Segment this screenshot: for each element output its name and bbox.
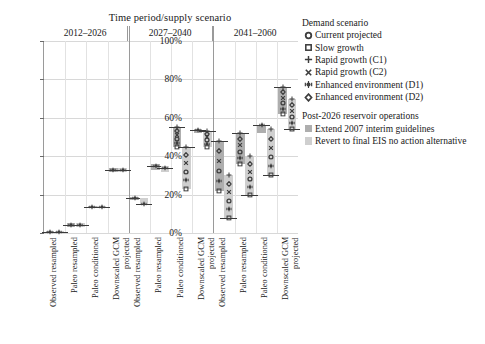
box-range-revert-eis — [288, 99, 297, 130]
legend-group-operations: Extend 2007 interim guidelinesRevert to … — [302, 122, 485, 147]
median-line — [169, 127, 186, 128]
legend-title-demand: Demand scenario — [302, 18, 485, 28]
x-axis-tick-label: Paleo conditioned — [91, 237, 101, 337]
legend-label: Enhanced environment (D2) — [315, 92, 423, 102]
y-axis-tick-label: 20% — [165, 190, 182, 200]
period-label-3: 2041–2060 — [212, 26, 297, 41]
y-axis-tick-label: 60% — [165, 113, 182, 123]
legend-title-operations: Post-2026 reservoir operations — [302, 111, 485, 121]
legend-item-demand[interactable]: Rapid growth (C1) — [302, 54, 485, 66]
y-axis-tick-label: 80% — [165, 74, 182, 84]
legend-item-demand[interactable]: Slow growth — [302, 41, 485, 53]
star-dot-icon — [302, 80, 315, 89]
category-column — [171, 41, 192, 233]
legend-label: Revert to final EIS no action alternativ… — [315, 136, 466, 146]
category-column — [192, 41, 213, 233]
category-column — [129, 41, 150, 233]
y-axis-tick-label: 100% — [160, 36, 182, 46]
category-column — [108, 41, 129, 233]
legend-item-operations[interactable]: Extend 2007 interim guidelines — [302, 122, 485, 134]
legend-label: Rapid growth (C2) — [315, 67, 387, 77]
legend-label: Enhanced environment (D1) — [315, 80, 423, 90]
page-title: Time period/supply scenario — [43, 12, 297, 23]
box-range-extend2007 — [236, 133, 245, 164]
x-axis-tick-label: Observed resampled — [133, 237, 143, 337]
category-column — [86, 41, 107, 233]
legend-item-demand[interactable]: Rapid growth (C2) — [302, 66, 485, 78]
x-axis-tick-label: Paleo conditioned — [176, 237, 186, 337]
x-axis-labels: Observed resampledPaleo resampledPaleo c… — [43, 235, 297, 340]
x-axis-tick-label: Paleo conditioned — [260, 237, 270, 337]
category-column — [213, 41, 234, 233]
period-label-1: 2012–2026 — [43, 26, 127, 41]
x-axis-tick-label: Downscaled GCM projected — [197, 237, 216, 337]
chart-root: Time period/supply scenario 2012–2026 20… — [0, 0, 485, 344]
x-axis-tick-label: Paleo resampled — [154, 237, 164, 337]
median-line — [284, 129, 301, 130]
x-axis-tick-label: Paleo resampled — [70, 237, 80, 337]
x-axis-tick-label: Downscaled GCM projected — [281, 237, 300, 337]
legend-item-operations[interactable]: Revert to final EIS no action alternativ… — [302, 135, 485, 147]
x-axis-tick-label: Observed resampled — [49, 237, 59, 337]
chart-legend: Demand scenario Current projectedSlow gr… — [302, 18, 485, 147]
cross-icon — [302, 68, 315, 77]
category-column — [235, 41, 256, 233]
y-axis-tick-mark — [40, 233, 44, 234]
legend-group-demand: Current projectedSlow growthRapid growth… — [302, 29, 485, 103]
box-range-revert-eis — [203, 131, 212, 146]
legend-label: Rapid growth (C1) — [315, 55, 387, 65]
median-line — [232, 133, 249, 134]
median-line — [211, 141, 228, 142]
x-axis-tick-label: Downscaled GCM projected — [112, 237, 131, 337]
box-range-revert-eis — [224, 175, 233, 217]
median-line — [253, 125, 270, 126]
color-swatch — [302, 137, 315, 145]
circle-open-icon — [302, 31, 315, 40]
box-range-extend2007 — [278, 87, 287, 114]
category-column — [44, 41, 65, 233]
box-range-revert-eis — [267, 129, 276, 175]
color-swatch — [302, 125, 315, 133]
square-open-icon — [302, 43, 315, 52]
legend-item-demand[interactable]: Current projected — [302, 29, 485, 41]
legend-label: Extend 2007 interim guidelines — [315, 124, 435, 134]
legend-spacer — [302, 103, 485, 111]
diamond-open-icon — [302, 93, 315, 102]
x-axis-tick-label: Observed resampled — [218, 237, 228, 337]
plot-area — [43, 41, 298, 234]
legend-label: Slow growth — [315, 43, 364, 53]
median-line — [274, 87, 291, 88]
category-column — [65, 41, 86, 233]
box-range-extend2007 — [257, 125, 266, 133]
box-range-extend2007 — [215, 141, 224, 191]
box-range-revert-eis — [245, 156, 254, 194]
plus-icon — [302, 55, 315, 64]
category-column — [277, 41, 298, 233]
legend-item-demand[interactable]: Enhanced environment (D2) — [302, 91, 485, 103]
box-range-extend2007 — [173, 127, 182, 146]
category-column — [256, 41, 277, 233]
legend-item-demand[interactable]: Enhanced environment (D1) — [302, 79, 485, 91]
y-axis-tick-label: 0% — [169, 228, 182, 238]
y-axis-tick-label: 40% — [165, 151, 182, 161]
x-axis-tick-label: Paleo resampled — [239, 237, 249, 337]
box-range-revert-eis — [182, 147, 191, 189]
legend-label: Current projected — [315, 30, 382, 40]
category-column — [150, 41, 171, 233]
